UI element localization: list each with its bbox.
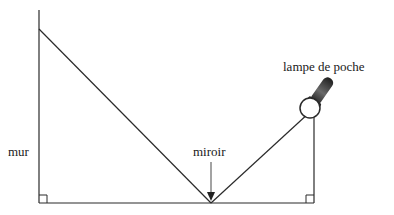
flashlight-icon xyxy=(300,74,337,118)
flashlight-label: lampe de poche xyxy=(283,60,365,73)
right-angle-left-icon xyxy=(39,195,47,203)
ray-wall-to-mirror xyxy=(39,29,211,203)
right-angle-right-icon xyxy=(306,195,314,203)
mirror-label: miroir xyxy=(193,145,226,158)
wall-label: mur xyxy=(8,145,29,158)
reflection-diagram xyxy=(0,0,394,215)
